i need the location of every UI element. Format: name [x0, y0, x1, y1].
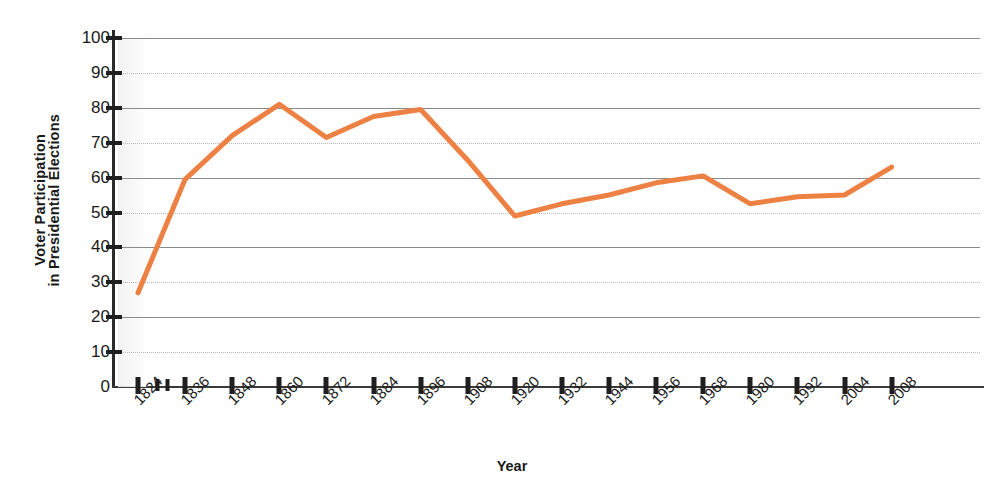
y-axis-tick-labels: 0102030405060708090100 — [68, 0, 110, 485]
y-axis-line — [112, 30, 115, 388]
plot-area — [118, 38, 980, 387]
y-tick-mark-50 — [106, 211, 122, 215]
y-tick-mark-100 — [106, 36, 122, 40]
y-axis-title: Voter Participation in Presidential Elec… — [26, 0, 68, 400]
y-tick-mark-80 — [106, 106, 122, 110]
y-axis-title-line-2: in Presidential Elections — [47, 114, 62, 287]
y-tick-mark-90 — [106, 71, 122, 75]
y-tick-mark-30 — [106, 280, 122, 284]
x-tick-mark-minor-2 — [166, 379, 170, 391]
x-axis-title-text: Year — [497, 458, 528, 474]
y-tick-mark-60 — [106, 176, 122, 180]
voter-participation-line-chart: Voter Participation in Presidential Elec… — [0, 0, 984, 485]
y-axis-title-line-1: Voter Participation — [33, 134, 48, 266]
series-line-voter-participation — [138, 104, 892, 292]
y-tick-label-0: 0 — [101, 377, 110, 397]
y-tick-mark-10 — [106, 350, 122, 354]
y-tick-mark-20 — [106, 315, 122, 319]
x-axis-title: Year — [0, 458, 984, 474]
y-tick-mark-40 — [106, 245, 122, 249]
data-line-series — [118, 38, 980, 387]
y-tick-mark-70 — [106, 141, 122, 145]
